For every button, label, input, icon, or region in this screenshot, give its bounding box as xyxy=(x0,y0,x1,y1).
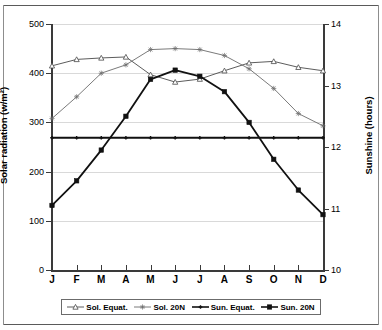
right-tick-10 xyxy=(324,270,329,271)
left-axis-label-0: 0 xyxy=(16,265,44,275)
chart-legend: Sol. Equat.Sol. 20NSun. Equat.Sun. 20N xyxy=(61,299,321,315)
x-tick-A-3 xyxy=(126,265,127,271)
legend-item-0[interactable]: Sol. Equat. xyxy=(67,302,127,312)
legend-marker-small-cross-icon xyxy=(192,302,209,312)
legend-label-2: Sun. Equat. xyxy=(211,303,255,312)
x-axis-label-6: J xyxy=(193,274,207,285)
left-tick-0 xyxy=(46,270,51,271)
right-axis-label-13: 13 xyxy=(331,81,355,91)
legend-marker-filled-square-icon xyxy=(261,302,278,312)
x-axis-label-7: A xyxy=(217,274,231,285)
chart-figure: 500 400 300 200 100 0 14 13 12 11 10 Sol… xyxy=(0,0,382,330)
x-tick-J-5 xyxy=(175,265,176,271)
right-axis-label-10: 10 xyxy=(331,265,355,275)
x-tick-J-6 xyxy=(200,265,201,271)
left-tick-400 xyxy=(46,73,51,74)
left-axis-label-200: 200 xyxy=(16,167,44,177)
right-tick-14 xyxy=(324,24,329,25)
x-tick-D-11 xyxy=(323,265,324,271)
legend-marker-open-triangle-icon xyxy=(67,302,84,312)
x-tick-M-2 xyxy=(101,265,102,271)
left-axis-label-300: 300 xyxy=(16,117,44,127)
x-axis-label-1: F xyxy=(70,274,84,285)
left-tick-300 xyxy=(46,122,51,123)
legend-label-1: Sol. 20N xyxy=(153,303,185,312)
gridline-400 xyxy=(52,73,324,74)
right-tick-11 xyxy=(324,209,329,210)
plot-area xyxy=(52,24,324,270)
gridline-200 xyxy=(52,172,324,173)
figure-right-border xyxy=(378,5,379,325)
left-axis-label-400: 400 xyxy=(16,68,44,78)
gridline-100 xyxy=(52,221,324,222)
x-tick-F-1 xyxy=(77,265,78,271)
right-axis-label-12: 12 xyxy=(331,142,355,152)
x-tick-S-8 xyxy=(249,265,250,271)
legend-marker-asterisk-icon xyxy=(134,302,151,312)
figure-top-rule xyxy=(3,5,379,6)
x-axis-line xyxy=(51,270,325,272)
left-tick-200 xyxy=(46,172,51,173)
x-axis-label-9: O xyxy=(267,274,281,285)
gridline-300 xyxy=(52,122,324,123)
x-axis-label-4: M xyxy=(144,274,158,285)
left-axis-label-500: 500 xyxy=(16,19,44,29)
right-axis-title: Sunshine (hours) xyxy=(363,96,374,174)
x-axis-label-2: M xyxy=(94,274,108,285)
legend-label-0: Sol. Equat. xyxy=(86,303,127,312)
x-axis-label-0: J xyxy=(45,274,59,285)
x-axis-label-3: A xyxy=(119,274,133,285)
x-tick-O-9 xyxy=(274,265,275,271)
legend-item-1[interactable]: Sol. 20N xyxy=(134,302,185,312)
x-axis-label-8: S xyxy=(242,274,256,285)
figure-bottom-rule xyxy=(3,324,379,325)
x-tick-N-10 xyxy=(298,265,299,271)
right-tick-12 xyxy=(324,147,329,148)
left-tick-500 xyxy=(46,24,51,25)
legend-label-3: Sun. 20N xyxy=(280,303,314,312)
right-axis-label-14: 14 xyxy=(331,19,355,29)
legend-item-2[interactable]: Sun. Equat. xyxy=(192,302,255,312)
x-axis-label-10: N xyxy=(291,274,305,285)
x-tick-M-4 xyxy=(151,265,152,271)
left-tick-100 xyxy=(46,221,51,222)
legend-item-3[interactable]: Sun. 20N xyxy=(261,302,314,312)
x-axis-label-5: J xyxy=(168,274,182,285)
right-axis-label-11: 11 xyxy=(331,204,355,214)
left-axis-label-100: 100 xyxy=(16,216,44,226)
x-tick-J-0 xyxy=(52,265,53,271)
left-axis-title: Solar radiation (w/m²) xyxy=(0,87,9,184)
gridline-500 xyxy=(52,24,324,25)
x-tick-A-7 xyxy=(224,265,225,271)
x-axis-label-11: D xyxy=(316,274,330,285)
left-axis-line xyxy=(51,24,53,271)
right-tick-13 xyxy=(324,86,329,87)
